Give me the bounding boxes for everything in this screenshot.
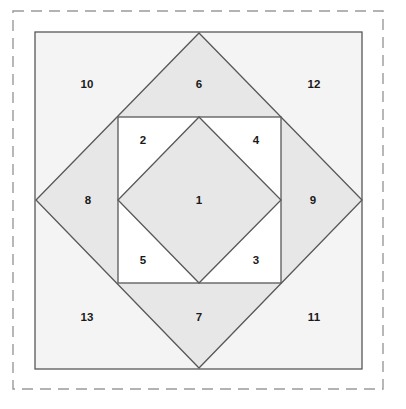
region-label-13: 13 (80, 311, 93, 323)
geometric-figure-svg: 1 2 3 4 5 6 7 8 9 10 11 12 13 (0, 0, 406, 409)
region-label-1: 1 (196, 194, 203, 206)
geometric-figure-container: 1 2 3 4 5 6 7 8 9 10 11 12 13 (0, 0, 406, 409)
region-label-4: 4 (253, 134, 260, 146)
region-label-11: 11 (308, 311, 321, 323)
region-label-12: 12 (307, 78, 320, 90)
region-label-10: 10 (80, 78, 93, 90)
region-label-3: 3 (253, 254, 260, 266)
region-label-2: 2 (140, 134, 147, 146)
region-label-9: 9 (310, 194, 317, 206)
region-label-5: 5 (140, 254, 147, 266)
region-label-6: 6 (196, 78, 203, 90)
region-label-8: 8 (85, 194, 92, 206)
region-label-7: 7 (196, 311, 203, 323)
